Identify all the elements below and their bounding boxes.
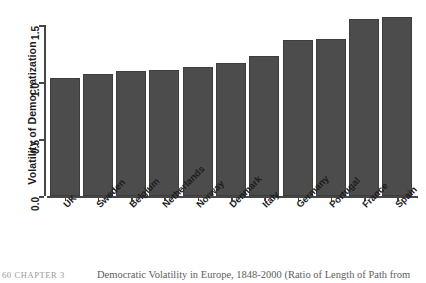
bar: [83, 74, 113, 196]
bar: [216, 63, 246, 196]
bar: [316, 39, 346, 196]
page-caption-row: 60 CHAPTER 3 Democratic Volatility in Eu…: [0, 270, 426, 283]
y-axis-tick-label: 0.0: [31, 197, 42, 211]
x-axis-tick-labels: UKSwedenBelgiumNetherlandsNorwayDenmarkI…: [44, 202, 418, 262]
y-axis-tick: 1.5: [39, 25, 44, 27]
y-axis-tick: 1.0: [39, 82, 44, 84]
bar: [283, 40, 313, 196]
bar: [50, 78, 80, 196]
running-head: 60 CHAPTER 3: [2, 270, 65, 280]
y-axis-title: Volatility of Democratization: [26, 28, 38, 198]
plot-area: 0.00.51.01.5: [44, 14, 418, 196]
y-axis-tick: 0.5: [39, 139, 44, 141]
y-axis-tick: 0.0: [39, 196, 44, 198]
y-axis-tick-label: 1.5: [31, 26, 42, 40]
figure-democratic-volatility: Volatility of Democratization 0.00.51.01…: [0, 0, 426, 283]
bar: [382, 17, 412, 196]
y-axis-tick-label: 0.5: [31, 140, 42, 154]
bar: [349, 19, 379, 196]
figure-caption: Democratic Volatility in Europe, 1848-20…: [97, 270, 410, 280]
y-axis-tick-label: 1.0: [31, 83, 42, 97]
bar-series: [44, 14, 418, 196]
